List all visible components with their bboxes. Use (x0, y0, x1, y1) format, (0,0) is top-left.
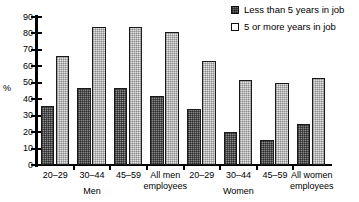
y-tick-label-70: 70 (23, 45, 33, 54)
bar-chart: 0102030405060708090 % 20–2930–4445–59All… (0, 0, 359, 202)
bar-5-or-more-years-5 (239, 80, 253, 166)
bar-less-than-5-years-6 (260, 140, 274, 165)
legend-swatch-dark-icon (231, 6, 239, 14)
bar-5-or-more-years-3 (165, 32, 179, 165)
y-tick-label-80: 80 (23, 29, 33, 38)
bar-less-than-5-years-4 (187, 109, 201, 165)
legend-swatch-light-icon (231, 23, 239, 31)
bar-less-than-5-years-7 (297, 124, 311, 165)
bar-5-or-more-years-4 (202, 61, 216, 165)
bar-less-than-5-years-5 (224, 132, 238, 165)
y-tick-label-30: 30 (23, 111, 33, 120)
bar-5-or-more-years-7 (312, 78, 326, 165)
x-axis-group-label-women: Women (208, 186, 268, 196)
bar-5-or-more-years-1 (92, 27, 106, 165)
y-tick-label-0: 0 (28, 161, 33, 170)
legend-item-5-or-more-years: 5 or more years in job (231, 19, 359, 34)
plot-area (37, 17, 330, 165)
x-axis-label-7: All women employees (284, 170, 339, 191)
y-axis-unit-label: % (3, 84, 11, 93)
legend-label-5-or-more-years: 5 or more years in job (244, 22, 336, 32)
bar-5-or-more-years-2 (129, 27, 143, 165)
y-tick-label-50: 50 (23, 78, 33, 87)
bar-less-than-5-years-3 (150, 96, 164, 165)
bar-5-or-more-years-6 (275, 83, 289, 165)
y-tick-label-20: 20 (23, 128, 33, 137)
bar-less-than-5-years-2 (114, 88, 128, 165)
y-tick-label-60: 60 (23, 62, 33, 71)
chart-legend: Less than 5 years in job 5 or more years… (231, 2, 359, 36)
y-tick-label-40: 40 (23, 95, 33, 104)
bar-5-or-more-years-0 (56, 56, 70, 165)
legend-item-less-than-5-years: Less than 5 years in job (231, 2, 359, 17)
bar-less-than-5-years-1 (77, 88, 91, 165)
bar-less-than-5-years-0 (41, 106, 55, 165)
legend-label-less-than-5-years: Less than 5 years in job (244, 5, 344, 15)
y-tick-label-10: 10 (23, 144, 33, 153)
x-axis-group-label-men: Men (62, 186, 122, 196)
y-tick-label-90: 90 (23, 13, 33, 22)
